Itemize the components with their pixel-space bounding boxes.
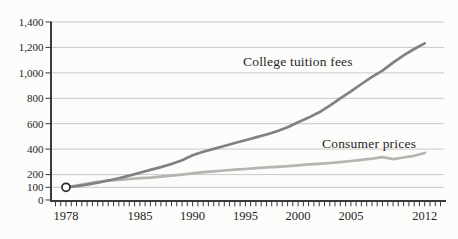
series-label-college-tuition-fees: College tuition fees (243, 54, 353, 70)
x-axis-label-1995: 1995 (233, 209, 258, 223)
x-axis-label-1978: 1978 (54, 209, 79, 223)
x-axis-label-1985: 1985 (127, 209, 152, 223)
series-line-consumer-prices (66, 153, 425, 187)
y-axis-label-0: 0 (38, 194, 44, 206)
x-axis-label-2005: 2005 (338, 209, 363, 223)
y-axis-label-200: 200 (27, 168, 44, 180)
tuition-vs-cpi-chart: 01002004006008001,0001,2001,400197819851… (0, 0, 458, 239)
y-axis-label-100: 100 (27, 181, 44, 193)
y-axis-label-1200: 1,200 (19, 41, 44, 53)
y-axis-label-400: 400 (27, 143, 44, 155)
y-axis-label-600: 600 (27, 118, 44, 130)
x-axis-label-2012: 2012 (412, 209, 437, 223)
chart-svg: 01002004006008001,0001,2001,400197819851… (0, 0, 458, 239)
y-axis-label-1400: 1,400 (19, 16, 44, 28)
x-axis-label-2000: 2000 (286, 209, 311, 223)
series-label-consumer-prices: Consumer prices (322, 136, 416, 152)
start-marker-circle (62, 183, 70, 191)
x-axis-label-1990: 1990 (180, 209, 205, 223)
y-axis-label-800: 800 (27, 92, 44, 104)
y-axis-label-1000: 1,000 (19, 67, 44, 79)
